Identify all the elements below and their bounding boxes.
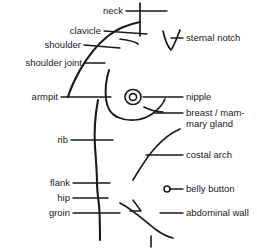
sternal-notch-v	[163, 30, 180, 50]
breast-contour	[117, 99, 165, 120]
label-shoulder: shoulder	[0, 39, 81, 50]
nipple-marker	[125, 90, 141, 105]
label-armpit: armpit	[0, 91, 58, 102]
label-nipple: nipple	[186, 91, 211, 102]
label-shoulder-joint: shoulder joint	[0, 57, 82, 68]
flank-contour	[95, 100, 100, 240]
leader-shoulder	[84, 45, 120, 48]
label-groin: groin	[0, 207, 70, 218]
label-rib: rib	[0, 134, 68, 145]
anatomy-diagram-figure: neck clavicle shoulder shoulder joint ar…	[0, 0, 257, 252]
label-belly-button: belly button	[186, 183, 235, 194]
label-clavicle: clavicle	[0, 25, 101, 36]
label-costal-arch: costal arch	[186, 149, 232, 160]
abdominal-wall-arrow	[130, 200, 141, 211]
label-neck: neck	[0, 5, 123, 16]
clavicle-stroke	[120, 39, 138, 44]
label-breast-mammary-gland: breast / mam- mary gland	[186, 107, 245, 129]
label-hip: hip	[0, 192, 70, 203]
inguinal-curve	[120, 203, 173, 238]
label-abdominal-wall: abdominal wall	[186, 207, 249, 218]
label-flank: flank	[0, 177, 70, 188]
label-sternal-notch: sternal notch	[186, 32, 240, 43]
armpit-fold	[106, 70, 117, 117]
belly-button-marker	[164, 186, 170, 192]
